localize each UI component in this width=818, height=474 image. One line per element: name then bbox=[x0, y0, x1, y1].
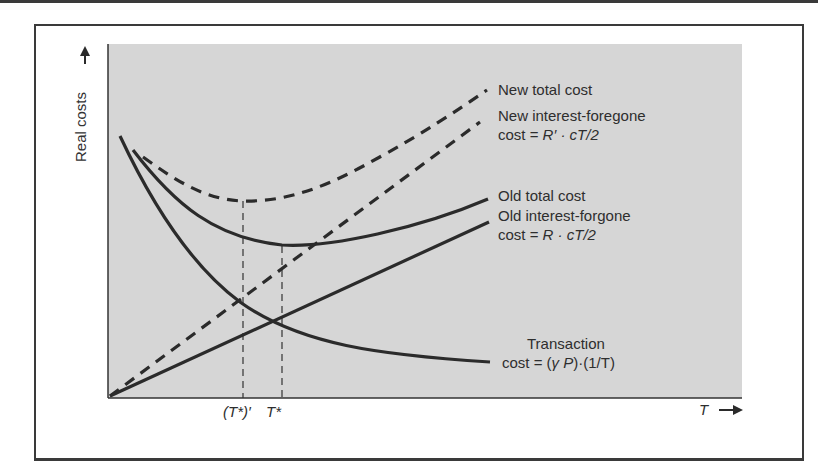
old-interest-cost-line bbox=[110, 222, 489, 396]
formula: γ P bbox=[552, 354, 574, 371]
formula-prefix: cost = bbox=[498, 226, 543, 243]
label-formula-line: cost = R · cT/2 bbox=[498, 225, 631, 244]
y-arrow-icon bbox=[80, 46, 90, 56]
label-transaction-formula: cost = (γ P)·(1/T) bbox=[502, 353, 615, 372]
label-text: Old total cost bbox=[498, 187, 586, 204]
transaction-cost-curve bbox=[120, 136, 490, 362]
tick-t-star-prime: (T*)′ bbox=[223, 403, 251, 420]
new-total-cost-curve bbox=[143, 90, 487, 201]
formula-prefix: cost = bbox=[498, 126, 543, 143]
tick-t-star: T* bbox=[266, 403, 281, 420]
x-arrow-icon bbox=[733, 405, 743, 415]
label-new-interest-cost: New interest-foregone cost = R′ · cT/2 bbox=[498, 106, 646, 144]
formula: R′ · cT/2 bbox=[543, 126, 599, 143]
x-axis-label: T bbox=[699, 401, 708, 418]
label-old-interest-cost: Old interest-forgone cost = R · cT/2 bbox=[498, 206, 631, 244]
label-text: Old interest-forgone bbox=[498, 206, 631, 225]
y-axis-label: Real costs bbox=[72, 92, 89, 162]
formula-prefix: cost = ( bbox=[502, 354, 552, 371]
label-text: New interest-foregone bbox=[498, 106, 646, 125]
old-total-cost-curve bbox=[133, 150, 488, 245]
label-transaction-title: Transaction bbox=[527, 334, 605, 353]
label-formula-line: cost = R′ · cT/2 bbox=[498, 125, 646, 144]
label-new-total-cost: New total cost bbox=[498, 80, 592, 99]
label-old-total-cost: Old total cost bbox=[498, 186, 586, 205]
formula-suffix: )·(1/T) bbox=[573, 354, 615, 371]
cost-curves-chart bbox=[0, 0, 818, 474]
formula: R · cT/2 bbox=[543, 226, 596, 243]
label-text: New total cost bbox=[498, 81, 592, 98]
new-interest-cost-line bbox=[110, 122, 480, 396]
label-text: Transaction bbox=[527, 335, 605, 352]
